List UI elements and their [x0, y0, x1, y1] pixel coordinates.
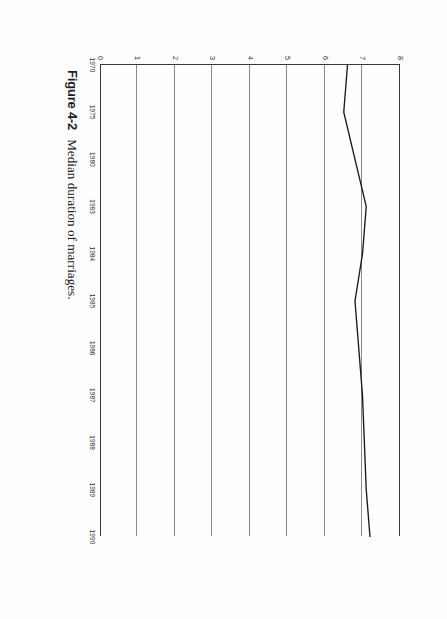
y-tick-label: 7	[358, 55, 367, 59]
y-tick-label: 5	[283, 55, 292, 59]
plot-area: 876543210 197019751980198319841985198619…	[100, 64, 400, 536]
x-tick-label: 1983	[89, 199, 96, 214]
x-tick-label: 1990	[89, 529, 96, 544]
y-tick-label: 1	[133, 55, 142, 59]
x-tick-label: 1970	[89, 57, 96, 72]
x-tick-label: 1988	[89, 435, 96, 450]
figure-caption-text: Median duration of marriages.	[65, 139, 80, 299]
series-line-median-duration	[100, 65, 400, 537]
scanned-page: 876543210 197019751980198319841985198619…	[0, 0, 447, 619]
x-tick-label: 1986	[89, 340, 96, 355]
y-tick-label: 4	[245, 55, 254, 59]
y-tick-label: 6	[320, 55, 329, 59]
x-tick-label: 1987	[89, 388, 96, 403]
figure-caption: Figure 4-2Median duration of marriages.	[64, 70, 80, 570]
x-tick-label: 1980	[89, 152, 96, 167]
x-tick-label: 1984	[89, 246, 96, 261]
y-tick-label: 8	[395, 55, 404, 59]
line-chart: 876543210 197019751980198319841985198619…	[100, 64, 400, 536]
y-tick-label: 0	[95, 55, 104, 59]
y-tick-label: 3	[208, 55, 217, 59]
figure-rotated-container: 876543210 197019751980198319841985198619…	[38, 30, 410, 590]
x-tick-label: 1985	[89, 293, 96, 308]
figure-number: Figure 4-2	[65, 70, 80, 130]
x-tick-label: 1975	[89, 104, 96, 119]
y-tick-label: 2	[170, 55, 179, 59]
x-tick-label: 1989	[89, 482, 96, 497]
